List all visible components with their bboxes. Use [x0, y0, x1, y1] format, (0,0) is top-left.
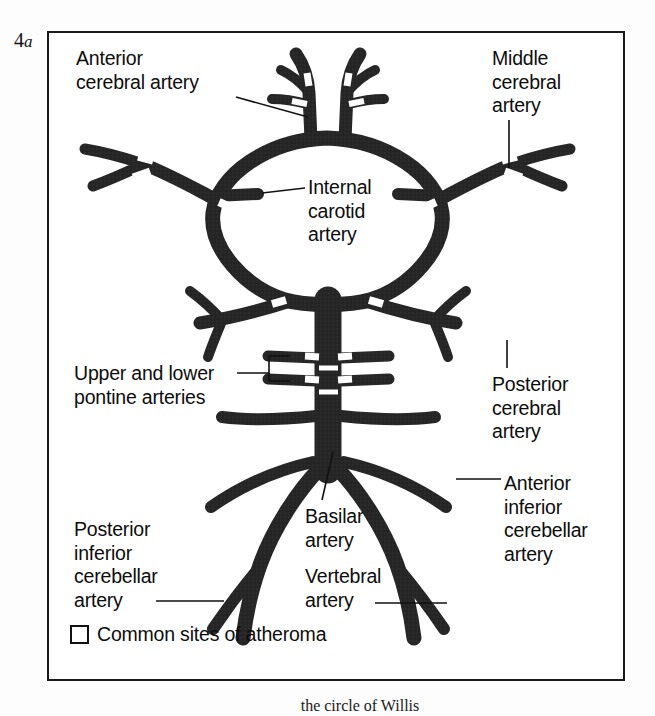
label-anterior-inferior-cerebellar-artery: Anterior inferior cerebellar artery: [504, 472, 654, 566]
label-posterior-inferior-cerebellar-artery: Posterior inferior cerebellar artery: [74, 518, 254, 612]
label-vertebral-artery: Vertebral artery: [305, 565, 435, 612]
label-anterior-cerebral-artery: Anterior cerebral artery: [76, 47, 296, 94]
legend: Common sites of atheroma: [70, 623, 326, 646]
figure-number: 4a: [14, 29, 33, 52]
label-middle-cerebral-artery: Middle cerebral artery: [492, 47, 632, 118]
atheroma-site-swatch-icon: [70, 625, 89, 644]
label-upper-and-lower-pontine-arteries: Upper and lower pontine arteries: [74, 362, 304, 409]
legend-label: Common sites of atheroma: [97, 623, 326, 646]
figure-number-letter: a: [24, 32, 33, 51]
label-basilar-artery: Basilar artery: [305, 505, 425, 552]
label-internal-carotid-artery: Internal carotid artery: [308, 176, 458, 247]
figure-plate: 4a: [0, 0, 655, 716]
plate-caption: the circle of Willis: [130, 697, 590, 715]
figure-number-digit: 4: [14, 29, 24, 51]
label-posterior-cerebral-artery: Posterior cerebral artery: [492, 373, 632, 444]
